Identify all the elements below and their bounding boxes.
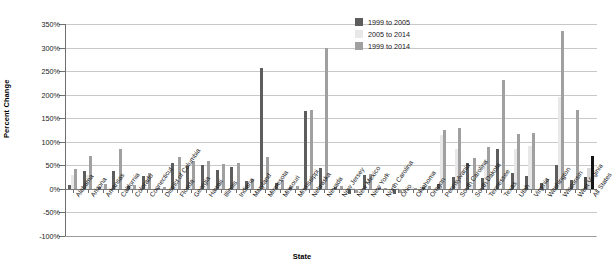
y-tick <box>59 71 66 72</box>
bar <box>222 164 225 188</box>
bar <box>532 133 535 189</box>
y-tick-label: 50% <box>16 161 60 170</box>
legend-swatch-icon <box>355 42 363 50</box>
y-tick <box>59 24 66 25</box>
legend-swatch-icon <box>355 30 363 38</box>
legend-label: 1999 to 2005 <box>368 18 410 27</box>
legend: 1999 to 2005 2005 to 2014 1999 to 2014 <box>355 16 410 52</box>
y-tick-label: 200% <box>16 91 60 100</box>
y-tick-label: -50% <box>16 208 60 217</box>
y-tick <box>59 118 66 119</box>
legend-label: 2005 to 2014 <box>368 30 410 39</box>
y-tick-label: -100% <box>16 232 60 241</box>
legend-item: 1999 to 2005 <box>355 16 410 28</box>
legend-swatch-icon <box>355 18 363 26</box>
y-tick-label: 250% <box>16 67 60 76</box>
y-tick <box>59 142 66 143</box>
x-axis-title: State <box>0 252 604 261</box>
bar <box>260 68 263 189</box>
bar <box>74 169 77 189</box>
legend-item: 1999 to 2014 <box>355 40 410 52</box>
y-tick <box>59 165 66 166</box>
bar <box>325 48 328 189</box>
y-tick-label: 300% <box>16 44 60 53</box>
bar <box>561 31 564 189</box>
legend-item: 2005 to 2014 <box>355 28 410 40</box>
y-tick-label: 0% <box>16 185 60 194</box>
y-tick-label: 350% <box>16 20 60 29</box>
y-tick <box>59 48 66 49</box>
y-tick-label: 150% <box>16 114 60 123</box>
y-tick-label: 100% <box>16 138 60 147</box>
legend-label: 1999 to 2014 <box>368 42 410 51</box>
y-tick <box>59 95 66 96</box>
bar <box>517 134 520 189</box>
bar <box>237 163 240 189</box>
bar <box>207 161 210 189</box>
y-axis-title: Percent Change <box>2 124 11 138</box>
bar <box>296 186 299 189</box>
x-axis-tick-labels: AlabamaArizonaArkansasCaliforniaColorado… <box>65 190 596 252</box>
